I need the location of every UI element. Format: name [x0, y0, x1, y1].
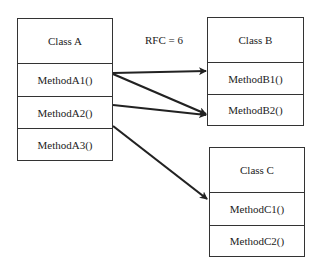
class-c-box: Class C MethodC1() MethodC2() [209, 147, 305, 257]
method-b2: MethodB2() [208, 94, 303, 125]
rfc-annotation: RFC = 6 [145, 34, 183, 46]
class-c-title: Class C [210, 148, 304, 192]
method-c2: MethodC2() [210, 225, 304, 256]
method-a3: MethodA3() [18, 128, 112, 160]
method-a2: MethodA2() [18, 96, 112, 128]
arrow-a1-b1 [113, 71, 206, 73]
arrow-a1-b2 [113, 74, 206, 114]
method-b1: MethodB1() [208, 62, 303, 94]
method-a1: MethodA1() [18, 63, 112, 96]
class-a-title: Class A [18, 19, 112, 63]
class-b-box: Class B MethodB1() MethodB2() [207, 17, 304, 126]
class-b-title: Class B [208, 18, 303, 62]
method-c1: MethodC1() [210, 192, 304, 225]
class-a-box: Class A MethodA1() MethodA2() MethodA3() [17, 18, 113, 161]
arrow-a2-b2 [113, 105, 206, 115]
arrow-a3-c1 [113, 126, 207, 199]
